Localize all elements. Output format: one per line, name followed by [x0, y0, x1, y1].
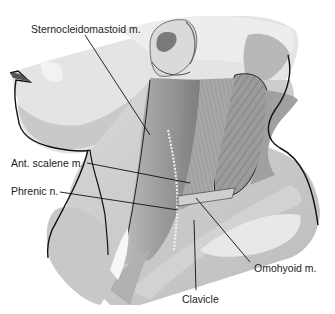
label-clavicle: Clavicle: [182, 293, 219, 305]
label-ant-scalene: Ant. scalene m.: [11, 157, 83, 169]
label-phrenic-nerve: Phrenic n.: [11, 185, 58, 197]
label-sternocleidomastoid: Sternocleidomastoid m.: [31, 23, 141, 35]
label-omohyoid: Omohyoid m.: [254, 262, 316, 274]
anatomy-figure: Sternocleidomastoid m. Ant. scalene m. P…: [0, 0, 335, 314]
